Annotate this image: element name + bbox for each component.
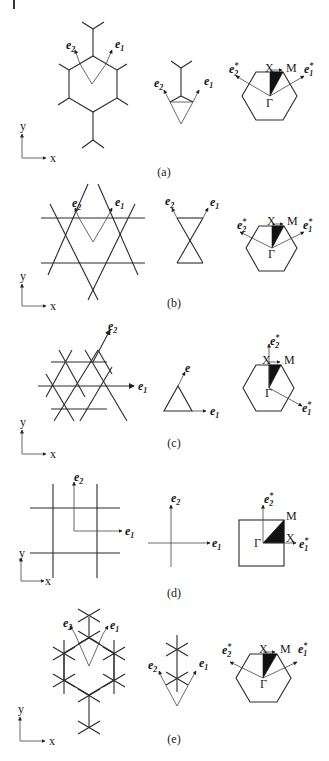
panel-d-axes: y x xyxy=(19,546,51,588)
panel-a-unit-cell: e2 e1 xyxy=(154,61,213,124)
caption-a: (a) xyxy=(157,165,170,179)
panel-a-real-space: e2 e1 xyxy=(58,22,128,148)
label-e2: e2 xyxy=(74,470,83,486)
panel-d: e2 e1 e2 e1 e*2 e*1 M X Γ y x (d) xyxy=(19,470,309,600)
point-M: M xyxy=(280,642,291,656)
label-e2: e2 xyxy=(63,616,72,632)
caption-b: (b) xyxy=(167,296,181,310)
label-e1: e1 xyxy=(115,37,124,53)
svg-text:y: y xyxy=(18,702,24,716)
label-e1-star: e*1 xyxy=(299,536,309,553)
label-e2: e2 xyxy=(72,196,81,212)
point-Gamma: Γ xyxy=(265,386,272,400)
label-e2-star: e*2 xyxy=(229,61,239,78)
x-axis-label: x xyxy=(50,151,56,165)
label-e2-star: e*2 xyxy=(264,491,274,508)
label-e1: e1 xyxy=(210,404,219,420)
label-e2-star: e*2 xyxy=(222,642,232,659)
vector-e2-arrow xyxy=(75,50,80,64)
panel-b: e2 e1 e2 e1 e*2 e*1 X M Γ xyxy=(20,184,313,313)
label-e1: e1 xyxy=(212,536,221,552)
panel-b-real-space: e2 e1 xyxy=(41,184,145,300)
caption-e: (e) xyxy=(167,732,180,746)
panel-e-axes: y x xyxy=(18,702,55,748)
label-e2: e2 xyxy=(66,38,75,54)
point-X: X xyxy=(259,642,268,656)
caption-d: (d) xyxy=(167,586,181,600)
label-e1: e1 xyxy=(115,195,124,211)
point-M: M xyxy=(284,353,295,367)
panel-e: e2 e1 e2 e1 e*2 e*1 X M Γ xyxy=(18,609,308,748)
label-e2: e2 xyxy=(154,76,163,92)
panel-e-real-space: e2 e1 xyxy=(53,609,125,734)
panel-c-axes: y x xyxy=(20,415,56,461)
panel-c-real-space: e2 e1 xyxy=(38,319,147,421)
point-M: M xyxy=(287,214,298,228)
panel-c-unit-cell: e e1 xyxy=(164,361,219,420)
label-e1: e1 xyxy=(204,74,213,90)
svg-text:y: y xyxy=(19,546,25,560)
panel-b-brillouin-zone: e*2 e*1 X M Γ xyxy=(237,214,313,271)
panel-a: e2 e1 e2 e1 e*2 e*1 X M Γ xyxy=(20,22,314,179)
svg-text:x: x xyxy=(45,574,51,588)
label-e1-star: e*1 xyxy=(298,641,308,658)
panel-d-unit-cell: e2 e1 xyxy=(148,491,221,567)
point-X: X xyxy=(262,353,271,367)
panel-d-real-space: e2 e1 xyxy=(30,470,134,578)
panel-e-unit-cell: e2 e1 xyxy=(148,635,208,706)
point-M: M xyxy=(286,509,297,523)
label-e2-star: e*2 xyxy=(270,333,280,350)
point-Gamma: Γ xyxy=(254,536,261,550)
lattice-figure: e2 e1 e2 e1 e*2 e*1 X M Γ xyxy=(0,0,329,761)
point-X: X xyxy=(267,214,276,228)
svg-text:x: x xyxy=(50,299,56,313)
label-e2: e2 xyxy=(108,319,117,335)
label-e1: e1 xyxy=(125,524,134,540)
point-Gamma: Γ xyxy=(266,96,273,110)
panel-b-axes: y x xyxy=(20,269,56,313)
panel-b-unit-cell: e2 e1 xyxy=(165,194,219,263)
panel-d-brillouin-zone: e*2 e*1 M X Γ xyxy=(239,491,309,566)
panel-e-brillouin-zone: e*2 e*1 X M Γ xyxy=(222,641,308,702)
label-e: e xyxy=(185,361,191,375)
label-e1-star: e*1 xyxy=(302,400,312,417)
svg-text:x: x xyxy=(50,447,56,461)
label-e1: e1 xyxy=(110,618,119,634)
label-e2: e2 xyxy=(165,194,174,210)
label-e2: e2 xyxy=(171,491,180,507)
label-e1: e1 xyxy=(199,656,208,672)
svg-text:y: y xyxy=(20,415,26,429)
label-e2: e2 xyxy=(148,658,157,674)
panel-c-brillouin-zone: e*2 e*1 X M Γ xyxy=(243,333,312,417)
panel-a-brillouin-zone: e*2 e*1 X M Γ xyxy=(229,61,314,120)
point-X: X xyxy=(286,531,295,545)
point-X: X xyxy=(265,61,274,75)
caption-c: (c) xyxy=(167,436,180,450)
svg-text:y: y xyxy=(20,269,26,283)
vector-e1-arrow xyxy=(106,50,112,64)
point-Gamma: Γ xyxy=(268,247,275,261)
label-e1-star: e*1 xyxy=(304,61,314,78)
label-e1: e1 xyxy=(138,379,147,395)
svg-text:x: x xyxy=(49,734,55,748)
label-e1: e1 xyxy=(210,195,219,211)
point-Gamma: Γ xyxy=(260,677,267,691)
label-e1-star: e*1 xyxy=(303,217,313,234)
panel-a-axes: y x xyxy=(20,119,56,165)
panel-c: e2 e1 e e1 e*2 e*1 X M Γ y x xyxy=(20,319,312,461)
point-M: M xyxy=(286,61,297,75)
label-e2-star: e*2 xyxy=(237,217,247,234)
y-axis-label: y xyxy=(20,119,26,133)
